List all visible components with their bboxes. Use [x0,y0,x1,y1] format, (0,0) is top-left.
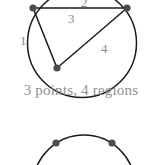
bottom-point-left [52,139,59,146]
region-label-1: 1 [20,34,27,47]
chord-left [33,8,57,68]
bottom-point-right [108,139,115,146]
region-label-2: 2 [81,0,88,9]
bottom-circle-outline [33,135,135,165]
region-label-3: 3 [68,12,75,25]
point-top-left [29,4,36,11]
point-bottom [53,64,60,71]
figure-caption: 3 points, 4 regions [0,82,162,99]
point-top-right [123,4,130,11]
region-label-4: 4 [101,42,108,55]
figure-page: 1 2 3 4 3 points, 4 regions [0,0,162,165]
